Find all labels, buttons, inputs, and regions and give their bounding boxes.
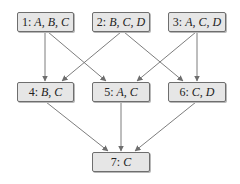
node-number: 7: bbox=[111, 155, 120, 170]
node-2: 2: B, C, D bbox=[92, 12, 150, 32]
node-set-label: A, C bbox=[117, 85, 138, 100]
node-number: 3: bbox=[173, 15, 182, 30]
node-number: 2: bbox=[97, 15, 106, 30]
edge-1-5 bbox=[48, 32, 106, 81]
node-4: 4: B, C bbox=[17, 82, 74, 102]
node-number: 6: bbox=[179, 85, 188, 100]
node-6: 6: C, D bbox=[168, 82, 226, 102]
node-set-label: C bbox=[123, 155, 131, 170]
edge-2-6 bbox=[124, 32, 183, 81]
node-1: 1: A, B, C bbox=[17, 12, 74, 32]
node-set-label: A, B, C bbox=[34, 15, 69, 30]
edge-4-7 bbox=[46, 102, 108, 151]
lattice-diagram: 1: A, B, C 2: B, C, D 3: A, C, D 4: B, C… bbox=[0, 0, 240, 184]
node-number: 1: bbox=[22, 15, 31, 30]
edge-2-4 bbox=[62, 32, 121, 81]
node-number: 5: bbox=[104, 85, 113, 100]
node-set-label: B, C bbox=[41, 85, 62, 100]
node-set-label: C, D bbox=[192, 85, 215, 100]
node-5: 5: A, C bbox=[92, 82, 150, 102]
node-set-label: B, C, D bbox=[109, 15, 145, 30]
edge-3-5 bbox=[137, 32, 196, 81]
node-set-label: A, C, D bbox=[185, 15, 221, 30]
node-7: 7: C bbox=[92, 152, 150, 172]
edge-6-7 bbox=[135, 102, 196, 151]
node-3: 3: A, C, D bbox=[168, 12, 226, 32]
node-number: 4: bbox=[29, 85, 38, 100]
